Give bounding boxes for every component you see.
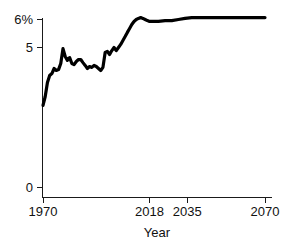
chart-container: 056% 1970201820352070 Year	[0, 0, 291, 244]
y-tick-group: 056%	[14, 12, 42, 195]
y-tick-label: 0	[26, 180, 33, 195]
line-chart: 056% 1970201820352070 Year	[0, 0, 291, 244]
series-group	[43, 18, 265, 106]
x-tick-label: 2018	[135, 204, 164, 219]
series-line-share	[43, 18, 265, 106]
y-tick-label: 5	[26, 40, 33, 55]
y-tick-label: 6%	[14, 12, 33, 27]
axes-group	[43, 18, 273, 198]
x-tick-group: 1970201820352070	[29, 198, 280, 220]
x-tick-label: 2070	[251, 204, 280, 219]
x-axis-title: Year	[144, 225, 171, 240]
x-tick-label: 1970	[29, 204, 58, 219]
x-tick-label: 2035	[173, 204, 202, 219]
